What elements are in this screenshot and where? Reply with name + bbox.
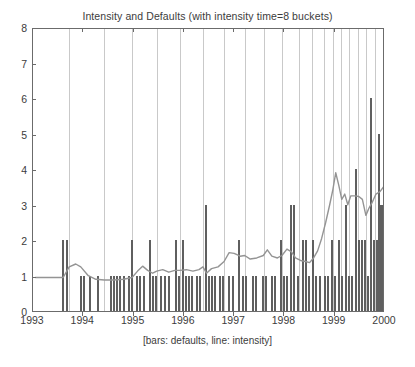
y-axis-tick-label: 4 bbox=[0, 164, 27, 176]
y-axis-tick-label: 1 bbox=[0, 271, 27, 283]
y-axis-tick bbox=[32, 241, 36, 242]
x-axis-tick bbox=[233, 312, 234, 316]
x-axis-tick-label: 2000 bbox=[372, 314, 395, 326]
bucket-boundary-line bbox=[224, 29, 225, 311]
default-bar bbox=[62, 240, 64, 311]
bucket-boundary-line bbox=[349, 29, 350, 311]
default-bar bbox=[139, 276, 141, 312]
x-axis-tick bbox=[133, 312, 134, 316]
default-bar bbox=[219, 276, 221, 312]
chart-title: Intensity and Defaults (with intensity t… bbox=[0, 10, 415, 22]
x-axis-tick bbox=[82, 312, 83, 316]
default-bar bbox=[83, 276, 85, 312]
bucket-boundary-line bbox=[157, 29, 158, 311]
x-axis-tick bbox=[334, 312, 335, 316]
default-bar bbox=[358, 240, 360, 311]
default-bar bbox=[331, 240, 333, 311]
default-bar bbox=[89, 276, 91, 312]
x-axis-tick-top bbox=[334, 28, 335, 32]
default-bar bbox=[211, 276, 213, 312]
default-bar bbox=[324, 276, 326, 312]
default-bar bbox=[113, 276, 115, 312]
y-axis-tick-label: 3 bbox=[0, 200, 27, 212]
bucket-boundary-line bbox=[366, 29, 367, 311]
y-axis: 012345678 bbox=[0, 28, 27, 312]
default-bar bbox=[175, 240, 177, 311]
default-bar bbox=[334, 276, 336, 312]
default-bar bbox=[262, 276, 264, 312]
y-axis-tick-label: 8 bbox=[0, 22, 27, 34]
default-bar bbox=[327, 276, 329, 312]
default-bar bbox=[191, 276, 193, 312]
y-axis-tick-label: 5 bbox=[0, 129, 27, 141]
default-bar bbox=[315, 276, 317, 312]
x-axis-caption: [bars: defaults, line: intensity] bbox=[0, 335, 415, 346]
bucket-boundary-line bbox=[104, 29, 105, 311]
default-bar bbox=[355, 169, 357, 311]
x-axis-tick bbox=[283, 312, 284, 316]
default-bar bbox=[265, 276, 267, 312]
default-bar bbox=[80, 276, 82, 312]
default-bar bbox=[338, 240, 340, 311]
default-bar bbox=[280, 240, 282, 311]
plot-area bbox=[32, 28, 384, 312]
default-bar bbox=[364, 240, 366, 311]
default-bar bbox=[143, 276, 145, 312]
default-bar bbox=[222, 276, 224, 312]
bucket-boundary-line bbox=[203, 29, 204, 311]
default-bar bbox=[255, 276, 257, 312]
default-bar bbox=[205, 205, 207, 312]
intensity-defaults-chart: Intensity and Defaults (with intensity t… bbox=[0, 0, 415, 367]
default-bar bbox=[274, 276, 276, 312]
default-bar bbox=[131, 240, 133, 311]
default-bar bbox=[319, 276, 321, 312]
default-bar bbox=[214, 276, 216, 312]
y-axis-tick bbox=[32, 206, 36, 207]
default-bar bbox=[348, 276, 350, 312]
default-bar bbox=[283, 276, 285, 312]
bucket-boundary-line bbox=[180, 29, 181, 311]
bucket-boundary-line bbox=[299, 29, 300, 311]
default-bar bbox=[168, 276, 170, 312]
default-bar bbox=[185, 276, 187, 312]
default-bar bbox=[188, 276, 190, 312]
default-bar bbox=[290, 205, 292, 312]
default-bar bbox=[116, 276, 118, 312]
x-axis-tick-top bbox=[183, 28, 184, 32]
bucket-boundary-line bbox=[333, 29, 334, 311]
x-axis-tick-top bbox=[233, 28, 234, 32]
default-bar bbox=[110, 276, 112, 312]
default-bar bbox=[373, 240, 375, 311]
x-axis-tick bbox=[183, 312, 184, 316]
default-bar bbox=[297, 276, 299, 312]
default-bar bbox=[361, 240, 363, 311]
default-bar bbox=[164, 276, 166, 312]
bucket-boundary-line bbox=[245, 29, 246, 311]
default-bar bbox=[382, 205, 384, 312]
default-bar bbox=[228, 276, 230, 312]
default-bar bbox=[245, 276, 247, 312]
default-bar bbox=[66, 240, 68, 311]
y-axis-tick bbox=[32, 99, 36, 100]
y-axis-tick bbox=[32, 170, 36, 171]
default-bar bbox=[136, 276, 138, 312]
default-bar bbox=[341, 276, 343, 312]
y-axis-tick bbox=[32, 277, 36, 278]
default-bar bbox=[312, 240, 314, 311]
default-bar bbox=[155, 276, 157, 312]
y-axis-tick bbox=[32, 135, 36, 136]
default-bar bbox=[97, 276, 99, 312]
x-axis-tick-top bbox=[82, 28, 83, 32]
default-bar bbox=[196, 276, 198, 312]
x-axis-tick-label: 1993 bbox=[20, 314, 43, 326]
default-bar bbox=[345, 205, 347, 312]
default-bar bbox=[308, 276, 310, 312]
default-bar bbox=[128, 276, 130, 312]
default-bar bbox=[252, 276, 254, 312]
default-bar bbox=[182, 240, 184, 311]
default-bar bbox=[351, 276, 353, 312]
bucket-boundary-line bbox=[264, 29, 265, 311]
default-bar bbox=[370, 98, 372, 311]
default-bar bbox=[271, 276, 273, 312]
default-bar bbox=[178, 276, 180, 312]
